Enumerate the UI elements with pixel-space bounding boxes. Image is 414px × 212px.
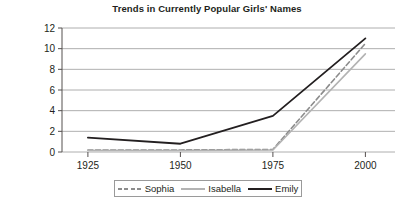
legend-item-isabella[interactable]: Isabella — [181, 183, 241, 194]
legend-swatch-emily — [248, 188, 272, 190]
svg-text:2: 2 — [49, 126, 55, 137]
svg-text:1925: 1925 — [77, 160, 100, 171]
legend-label-sophia: Sophia — [145, 183, 175, 194]
legend-swatch-isabella — [181, 188, 205, 190]
data-series — [88, 38, 366, 150]
svg-text:0: 0 — [49, 147, 55, 158]
chart-container: Trends in Currently Popular Girls' Names… — [0, 0, 414, 212]
svg-text:10: 10 — [44, 43, 56, 54]
svg-text:1975: 1975 — [262, 160, 285, 171]
svg-text:4: 4 — [49, 105, 55, 116]
legend-item-sophia[interactable]: Sophia — [118, 183, 175, 194]
legend-item-emily[interactable]: Emily — [248, 183, 298, 194]
x-tick-labels: 1925195019752000 — [77, 160, 377, 171]
chart-legend: SophiaIsabellaEmily — [114, 180, 302, 197]
gridlines — [62, 28, 395, 152]
y-tick-labels: 024681012 — [44, 23, 56, 158]
svg-text:2000: 2000 — [354, 160, 377, 171]
legend-swatch-sophia — [118, 188, 142, 190]
legend-label-isabella: Isabella — [208, 183, 241, 194]
svg-text:12: 12 — [44, 23, 56, 34]
tick-marks — [58, 28, 365, 157]
legend-label-emily: Emily — [275, 183, 298, 194]
svg-text:6: 6 — [49, 85, 55, 96]
svg-text:8: 8 — [49, 64, 55, 75]
svg-text:1950: 1950 — [169, 160, 192, 171]
